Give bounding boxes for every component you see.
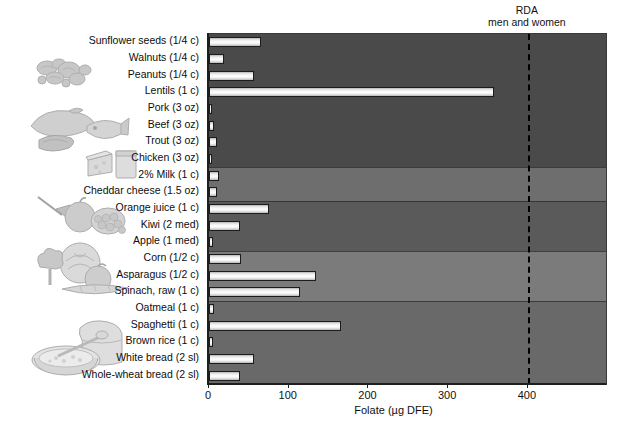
rda-annotation-line1: RDA (467, 4, 587, 16)
bar (209, 37, 261, 47)
category-label-list: Sunflower seeds (1/4 c)Walnuts (1/4 c)Pe… (0, 33, 203, 383)
category-label: Whole-wheat bread (2 sl) (0, 369, 203, 380)
category-label: Chicken (3 oz) (0, 152, 203, 163)
bar (209, 171, 219, 181)
group-band-nuts-legumes-meats (209, 34, 606, 167)
category-label: Lentils (1 c) (0, 85, 203, 96)
group-band-separator (209, 251, 606, 252)
bar (209, 321, 341, 331)
x-tick-mark (208, 383, 209, 388)
bar (209, 371, 240, 381)
y-axis-line (207, 33, 209, 384)
category-label: Beef (3 oz) (0, 119, 203, 130)
bar (209, 104, 212, 114)
category-label: Oatmeal (1 c) (0, 302, 203, 313)
rda-annotation: RDA men and women (467, 4, 587, 28)
category-label: Spaghetti (1 c) (0, 319, 203, 330)
category-label: Brown rice (1 c) (0, 335, 203, 346)
category-label: Apple (1 med) (0, 235, 203, 246)
group-band-separator (209, 301, 606, 302)
bar (209, 71, 254, 81)
category-label: Cheddar cheese (1.5 oz) (0, 185, 203, 196)
bar (209, 187, 217, 197)
rda-reference-line (528, 34, 530, 384)
bar (209, 271, 316, 281)
category-label: Orange juice (1 c) (0, 202, 203, 213)
group-band-grains (209, 301, 606, 384)
bar (209, 287, 300, 297)
bar (209, 221, 240, 231)
category-label: Peanuts (1/4 c) (0, 69, 203, 80)
category-label: Spinach, raw (1 c) (0, 285, 203, 296)
x-tick-mark (447, 383, 448, 388)
x-axis-title-text: Folate (µg DFE) (354, 404, 432, 416)
group-band-separator (209, 201, 606, 202)
bar (209, 121, 214, 131)
x-tick-label: 200 (358, 389, 376, 401)
bar (209, 154, 212, 164)
x-tick-mark (288, 383, 289, 388)
bar (209, 337, 213, 347)
x-tick-mark (527, 383, 528, 388)
x-tick-label: 0 (205, 389, 211, 401)
category-label: Kiwi (2 med) (0, 219, 203, 230)
category-label: Sunflower seeds (1/4 c) (0, 35, 203, 46)
x-tick-label: 400 (518, 389, 536, 401)
folate-chart-figure: RDA men and women (0, 0, 637, 434)
category-label: Trout (3 oz) (0, 135, 203, 146)
bar (209, 54, 224, 64)
bar (209, 137, 217, 147)
bar (209, 354, 254, 364)
category-label: Corn (1/2 c) (0, 252, 203, 263)
bar (209, 254, 241, 264)
x-axis-title: Folate (µg DFE) (0, 404, 637, 416)
bar (209, 304, 214, 314)
x-tick-mark (367, 383, 368, 388)
category-label: Walnuts (1/4 c) (0, 52, 203, 63)
group-band-dairy (209, 167, 606, 200)
x-tick-label: 100 (279, 389, 297, 401)
bar (209, 237, 213, 247)
rda-annotation-line2: men and women (467, 16, 587, 28)
x-tick-label: 300 (438, 389, 456, 401)
bar (209, 204, 269, 214)
x-axis-line (207, 383, 606, 385)
category-label: Asparagus (1/2 c) (0, 269, 203, 280)
plot-area (208, 33, 607, 385)
bar (209, 87, 494, 97)
category-label: White bread (2 sl) (0, 352, 203, 363)
category-label: Pork (3 oz) (0, 102, 203, 113)
group-band-separator (209, 167, 606, 168)
category-label: 2% Milk (1 c) (0, 169, 203, 180)
